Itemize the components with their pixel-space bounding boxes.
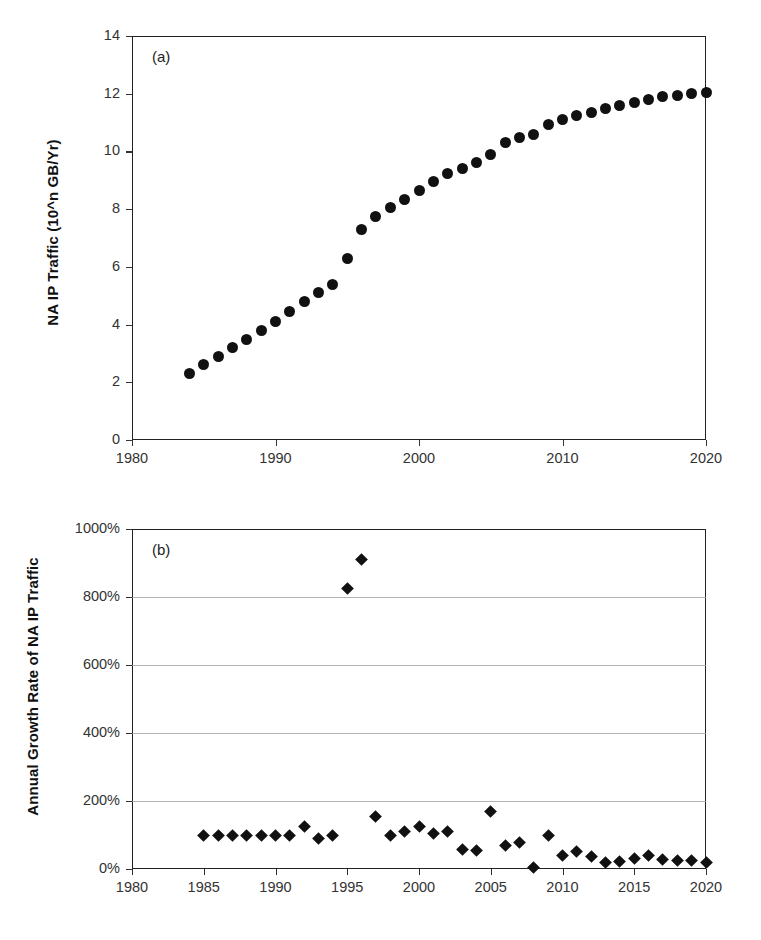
x-tick-mark xyxy=(419,869,420,875)
data-point xyxy=(299,296,310,307)
x-tick-mark xyxy=(419,440,420,446)
x-tick-mark xyxy=(563,869,564,875)
data-point xyxy=(586,107,597,118)
data-point xyxy=(514,132,525,143)
x-tick-label: 1995 xyxy=(307,879,387,895)
data-point xyxy=(643,94,654,105)
panel-b: Annual Growth Rate of NA IP Traffic (b) … xyxy=(0,480,761,940)
y-tick-label: 800% xyxy=(16,588,120,604)
panel-a-plot-area xyxy=(132,36,706,440)
x-tick-mark xyxy=(491,869,492,875)
y-tick-mark xyxy=(126,325,132,326)
data-point xyxy=(485,149,496,160)
y-tick-mark xyxy=(126,382,132,383)
y-tick-label: 2 xyxy=(16,373,120,389)
panel-b-y-axis-title: Annual Growth Rate of NA IP Traffic xyxy=(24,497,41,877)
data-point xyxy=(184,368,195,379)
y-tick-mark xyxy=(126,801,132,802)
y-tick-mark xyxy=(126,267,132,268)
y-tick-mark xyxy=(126,151,132,152)
panel-a: NA IP Traffic (10^n GB/Yr) (a) 024681012… xyxy=(0,0,761,480)
y-tick-mark xyxy=(126,597,132,598)
y-tick-label: 600% xyxy=(16,656,120,672)
y-tick-label: 4 xyxy=(16,316,120,332)
data-point xyxy=(500,137,511,148)
data-point xyxy=(399,194,410,205)
x-tick-mark xyxy=(276,440,277,446)
data-point xyxy=(356,224,367,235)
y-tick-mark xyxy=(126,209,132,210)
y-tick-label: 14 xyxy=(16,27,120,43)
data-point xyxy=(414,185,425,196)
x-tick-label: 2010 xyxy=(523,450,603,466)
y-tick-label: 8 xyxy=(16,200,120,216)
y-tick-mark xyxy=(126,665,132,666)
data-point xyxy=(701,87,712,98)
x-tick-mark xyxy=(347,869,348,875)
gridline xyxy=(132,801,706,802)
x-tick-mark xyxy=(563,440,564,446)
data-point xyxy=(672,90,683,101)
y-tick-label: 10 xyxy=(16,142,120,158)
x-tick-mark xyxy=(706,869,707,875)
x-tick-label: 2020 xyxy=(666,450,746,466)
figure-container: NA IP Traffic (10^n GB/Yr) (a) 024681012… xyxy=(0,0,761,940)
y-tick-label: 0 xyxy=(16,431,120,447)
x-tick-label: 2010 xyxy=(523,879,603,895)
data-point xyxy=(213,351,224,362)
gridline xyxy=(132,665,706,666)
data-point xyxy=(385,202,396,213)
x-tick-label: 1990 xyxy=(236,879,316,895)
data-point xyxy=(543,119,554,130)
data-point xyxy=(600,103,611,114)
data-point xyxy=(342,253,353,264)
x-tick-mark xyxy=(634,869,635,875)
panel-b-plot-area xyxy=(132,529,706,869)
x-tick-mark xyxy=(132,869,133,875)
x-tick-label: 1980 xyxy=(92,450,172,466)
data-point xyxy=(457,163,468,174)
x-tick-label: 2015 xyxy=(594,879,674,895)
x-tick-mark xyxy=(706,440,707,446)
gridline xyxy=(132,733,706,734)
data-point xyxy=(327,279,338,290)
y-tick-mark xyxy=(126,36,132,37)
x-tick-label: 2000 xyxy=(379,879,459,895)
x-tick-mark xyxy=(276,869,277,875)
x-tick-label: 2000 xyxy=(379,450,459,466)
x-tick-mark xyxy=(132,440,133,446)
data-point xyxy=(629,97,640,108)
x-tick-label: 1980 xyxy=(92,879,172,895)
panel-b-label: (b) xyxy=(152,541,170,558)
x-tick-mark xyxy=(204,869,205,875)
data-point xyxy=(256,325,267,336)
y-tick-label: 1000% xyxy=(16,520,120,536)
data-point xyxy=(442,168,453,179)
y-tick-label: 12 xyxy=(16,85,120,101)
x-tick-label: 1985 xyxy=(164,879,244,895)
y-tick-label: 0% xyxy=(16,860,120,876)
data-point xyxy=(528,129,539,140)
x-tick-label: 2005 xyxy=(451,879,531,895)
y-tick-label: 200% xyxy=(16,792,120,808)
data-point xyxy=(241,334,252,345)
y-tick-mark xyxy=(126,733,132,734)
x-tick-label: 1990 xyxy=(236,450,316,466)
y-tick-mark xyxy=(126,529,132,530)
gridline xyxy=(132,597,706,598)
panel-a-label: (a) xyxy=(152,48,170,65)
y-tick-label: 400% xyxy=(16,724,120,740)
y-tick-label: 6 xyxy=(16,258,120,274)
y-tick-mark xyxy=(126,94,132,95)
x-tick-label: 2020 xyxy=(666,879,746,895)
data-point xyxy=(428,176,439,187)
